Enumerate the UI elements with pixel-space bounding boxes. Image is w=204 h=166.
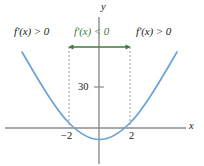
x-tick-label-negative-two: −2 xyxy=(61,131,72,142)
derivative-sign-figure: f′(x) > 0 f′(x) < 0 f′(x) > 0 y x 30 −2 … xyxy=(0,0,204,166)
axis-label-y: y xyxy=(101,2,106,13)
x-tick-label-two: 2 xyxy=(129,131,134,142)
label-left-region: f′(x) > 0 xyxy=(14,26,49,37)
axis-label-x: x xyxy=(189,121,194,132)
y-tick-label-30: 30 xyxy=(78,82,89,93)
label-right-region: f′(x) > 0 xyxy=(136,26,171,37)
label-middle-region: f′(x) < 0 xyxy=(74,26,109,37)
